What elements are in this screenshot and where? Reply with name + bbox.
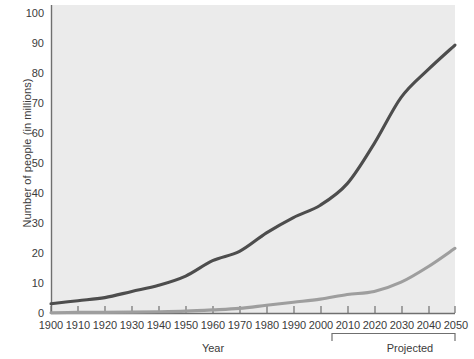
population-projection-chart: Number of people (in millions) 0 10 20 3… — [0, 0, 474, 359]
y-tick-label-100: 100 — [10, 8, 44, 19]
y-tick-label-50: 50 — [10, 158, 44, 169]
x-tick-label-2050: 2050 — [439, 320, 473, 331]
y-tick-label-60: 60 — [10, 128, 44, 139]
x-axis-ticks — [51, 306, 455, 313]
y-tick-label-80: 80 — [10, 68, 44, 79]
y-tick-label-90: 90 — [10, 38, 44, 49]
y-tick-label-40: 40 — [10, 188, 44, 199]
y-tick-label-0: 0 — [10, 308, 44, 319]
series-annotation-65-and-older: 65 and older — [216, 196, 277, 208]
y-tick-label-70: 70 — [10, 98, 44, 109]
y-tick-label-30: 30 — [10, 218, 44, 229]
projected-bracket-label: Projected — [375, 342, 445, 354]
plot-canvas — [0, 0, 474, 359]
x-axis-title: Year — [183, 342, 243, 354]
y-tick-label-10: 10 — [10, 278, 44, 289]
projected-bracket — [332, 333, 455, 341]
series-annotation-85-and-older: 85 and older — [355, 256, 416, 268]
y-tick-label-20: 20 — [10, 248, 44, 259]
